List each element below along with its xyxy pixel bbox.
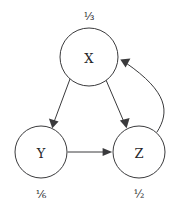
- edge-x-to-y-line: [54, 79, 70, 122]
- node-y[interactable]: Y: [15, 126, 67, 178]
- edge-x-to-z-line: [106, 80, 124, 122]
- node-z-weight-label: ½: [134, 188, 145, 201]
- markov-chain-diagram: X Y Z ⅓ ⅙ ½: [0, 0, 179, 212]
- edge-z-to-x-arrowhead: [120, 58, 130, 67]
- edge-z-to-x-curve: [126, 63, 164, 132]
- node-z[interactable]: Z: [113, 126, 165, 178]
- edge-x-to-y-arrowhead: [49, 119, 59, 129]
- edge-x-to-z-arrowhead: [120, 118, 130, 128]
- edge-x-to-z: [106, 80, 130, 128]
- edge-y-to-z-arrowhead: [103, 148, 113, 156]
- node-y-label: Y: [36, 146, 46, 161]
- node-z-label: Z: [134, 146, 143, 161]
- node-x-label: X: [84, 51, 94, 66]
- node-x-weight-label: ⅓: [84, 10, 95, 23]
- edge-x-to-y: [49, 79, 70, 128]
- graph-canvas: X Y Z ⅓ ⅙ ½: [0, 0, 179, 212]
- node-x[interactable]: X: [60, 28, 118, 86]
- edge-y-to-z: [68, 148, 112, 156]
- node-y-weight-label: ⅙: [36, 188, 47, 201]
